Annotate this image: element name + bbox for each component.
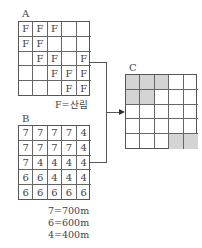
grid-c-cell <box>184 105 198 120</box>
grid-c-cell <box>184 75 198 90</box>
grid-b-cell: 6 <box>48 185 62 200</box>
grid-a-cell: F <box>77 81 91 96</box>
grid-b-cell: 4 <box>77 126 91 141</box>
grid-c-cell <box>169 105 183 120</box>
grid-c-cell <box>126 119 140 134</box>
grid-b-cell: 6 <box>77 185 91 200</box>
connector-from-a <box>90 62 106 63</box>
grid-b-cell: 7 <box>19 141 33 156</box>
grid-a-cell: F <box>33 22 47 37</box>
grid-c-cell <box>126 105 140 120</box>
grid-a-cell: F <box>62 81 76 96</box>
grid-a-cell: F <box>48 22 62 37</box>
grid-b-label: B <box>22 113 29 124</box>
grid-b-cell: 4 <box>77 170 91 185</box>
grid-a-cell: F <box>77 66 91 81</box>
grid-c-cell <box>155 105 169 120</box>
grid-a-cell <box>77 22 91 37</box>
grid-b-cell: 6 <box>33 170 47 185</box>
grid-c-cell <box>126 75 140 90</box>
grid-c-cell <box>140 119 154 134</box>
grid-a-cell <box>62 22 76 37</box>
grid-a-cell <box>62 52 76 67</box>
grid-c-cell <box>169 134 183 149</box>
grid-c-cell <box>155 75 169 90</box>
grid-b-cell: 4 <box>48 156 62 171</box>
grid-a-cell <box>19 52 33 67</box>
grid-c-label: C <box>129 62 137 73</box>
grid-c-cell <box>155 90 169 105</box>
grid-c-overlay-result <box>125 74 197 149</box>
grid-c-cell <box>169 75 183 90</box>
grid-a-cell: F <box>33 52 47 67</box>
grid-b-elevation-map: 7777477774744446644466666 <box>18 125 90 200</box>
grid-a-cell <box>48 37 62 52</box>
grid-b-cell: 6 <box>62 185 76 200</box>
grid-a-cell <box>77 37 91 52</box>
grid-b-cell: 7 <box>33 141 47 156</box>
grid-b-cell: 6 <box>19 170 33 185</box>
grid-a-cell <box>62 37 76 52</box>
grid-b-cell: 7 <box>19 126 33 141</box>
grid-c-cell <box>155 134 169 149</box>
grid-c-cell <box>184 119 198 134</box>
grid-a-cell: F <box>48 52 62 67</box>
grid-b-cell: 7 <box>19 156 33 171</box>
grid-c-cell <box>184 134 198 149</box>
grid-a-cell: F <box>19 37 33 52</box>
connector-from-b <box>90 162 106 163</box>
grid-a-cell <box>48 81 62 96</box>
grid-b-cell: 7 <box>33 126 47 141</box>
grid-c-cell <box>169 90 183 105</box>
grid-b-cell: 4 <box>77 156 91 171</box>
grid-b-cell: 4 <box>62 156 76 171</box>
grid-b-cell: 7 <box>48 141 62 156</box>
grid-a-cell: F <box>77 52 91 67</box>
grid-c-cell <box>126 90 140 105</box>
grid-b-cell: 7 <box>48 126 62 141</box>
arrow-head-icon <box>119 109 125 115</box>
grid-b-cell: 4 <box>77 141 91 156</box>
grid-a-cell: F <box>48 66 62 81</box>
grid-b-cell: 7 <box>62 126 76 141</box>
grid-c-cell <box>140 75 154 90</box>
legend-400: 4=400m <box>48 229 89 241</box>
grid-a-cell: F <box>62 66 76 81</box>
grid-b-cell: 4 <box>62 170 76 185</box>
grid-b-cell: 4 <box>48 170 62 185</box>
grid-a-cell: F <box>33 37 47 52</box>
grid-a-cell <box>19 81 33 96</box>
grid-b-legend: 7=700m 6=600m 4=400m <box>48 205 89 241</box>
grid-b-cell: 7 <box>62 141 76 156</box>
legend-600: 6=600m <box>48 217 89 229</box>
grid-b-cell: 4 <box>33 156 47 171</box>
grid-a-label: A <box>22 8 29 19</box>
grid-c-cell <box>155 119 169 134</box>
grid-c-cell <box>184 90 198 105</box>
grid-b-cell: 6 <box>33 185 47 200</box>
grid-c-cell <box>126 134 140 149</box>
grid-a-cell <box>33 81 47 96</box>
grid-b-cell: 6 <box>19 185 33 200</box>
grid-a-forest-map: FFFFFFFFFFFFF <box>18 21 90 96</box>
grid-a-cell: F <box>19 22 33 37</box>
grid-c-cell <box>140 105 154 120</box>
grid-a-legend: F=산림 <box>55 99 88 111</box>
grid-c-cell <box>140 134 154 149</box>
grid-a-cell <box>33 66 47 81</box>
grid-c-cell <box>140 90 154 105</box>
grid-a-cell <box>19 66 33 81</box>
legend-700: 7=700m <box>48 205 89 217</box>
grid-c-cell <box>169 119 183 134</box>
